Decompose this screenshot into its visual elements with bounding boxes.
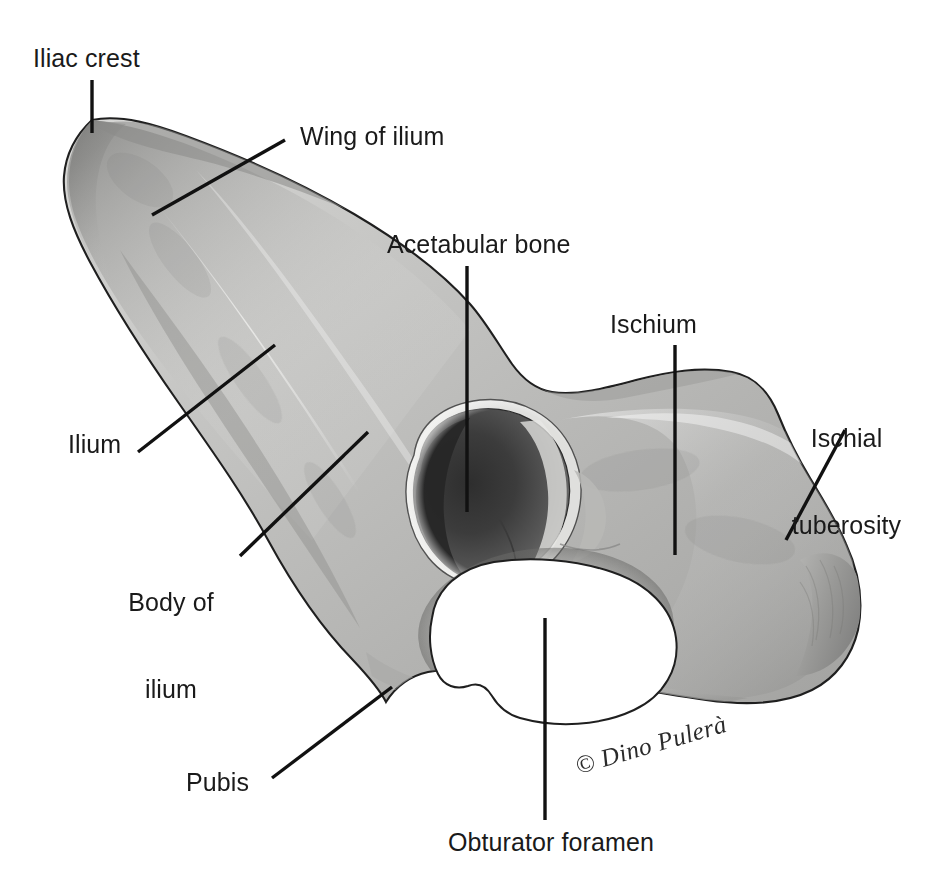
hip-bone-diagram: Iliac crest Wing of ilium Acetabular bon… xyxy=(0,0,939,883)
label-iliac-crest: Iliac crest xyxy=(33,44,140,73)
label-ischial-tuberosity-line1: Ischial xyxy=(769,424,924,453)
label-acetabular-bone: Acetabular bone xyxy=(387,230,571,259)
obturator-foramen xyxy=(430,559,677,724)
label-ischial-tuberosity: Ischial tuberosity xyxy=(769,366,924,598)
label-body-of-ilium: Body of ilium xyxy=(106,530,236,762)
label-wing-of-ilium: Wing of ilium xyxy=(300,122,444,151)
label-pubis: Pubis xyxy=(186,768,249,797)
label-ilium: Ilium xyxy=(68,430,121,459)
leader-pubis xyxy=(272,687,392,778)
label-ischium: Ischium xyxy=(610,310,697,339)
obturator-foramen-opening xyxy=(430,559,677,724)
label-body-of-ilium-line2: ilium xyxy=(106,675,236,704)
label-ischial-tuberosity-line2: tuberosity xyxy=(769,511,924,540)
label-body-of-ilium-line1: Body of xyxy=(106,588,236,617)
label-obturator-foramen: Obturator foramen xyxy=(448,828,654,857)
